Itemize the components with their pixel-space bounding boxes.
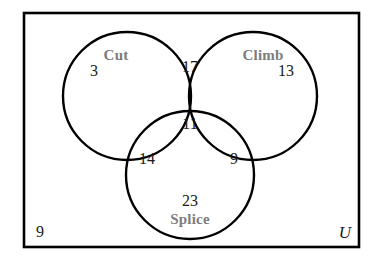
- venn-diagram-figure: Cut Climb Splice 3 13 23 17 14 9 11 9 U: [0, 0, 381, 262]
- region-count-climb-only: 13: [278, 63, 294, 79]
- region-count-cut-splice: 14: [139, 151, 155, 167]
- universal-set-symbol: U: [339, 224, 351, 241]
- region-count-cut-only: 3: [90, 63, 98, 79]
- set-label-climb: Climb: [242, 48, 283, 63]
- set-label-splice: Splice: [170, 212, 210, 227]
- set-label-cut: Cut: [104, 48, 129, 63]
- region-count-splice-only: 23: [182, 193, 198, 209]
- region-count-cut-climb-splice: 11: [182, 116, 197, 132]
- region-count-climb-splice: 9: [230, 151, 238, 167]
- region-count-cut-climb: 17: [182, 59, 198, 75]
- outside-count: 9: [36, 224, 44, 240]
